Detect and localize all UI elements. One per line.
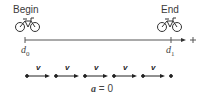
bicycle-icon	[16, 18, 40, 32]
acceleration-label: a = 0	[91, 83, 113, 94]
d1-label: d1	[166, 44, 175, 58]
motion-diagram	[26, 74, 173, 78]
velocity-label: v	[36, 63, 40, 72]
d0-label: d0	[21, 44, 30, 58]
velocity-label: v	[151, 63, 155, 72]
velocity-label: v	[94, 63, 98, 72]
bicycle-icon	[158, 18, 182, 32]
velocity-label: v	[123, 63, 127, 72]
velocity-label: v	[65, 63, 69, 72]
position-axis	[25, 37, 196, 43]
